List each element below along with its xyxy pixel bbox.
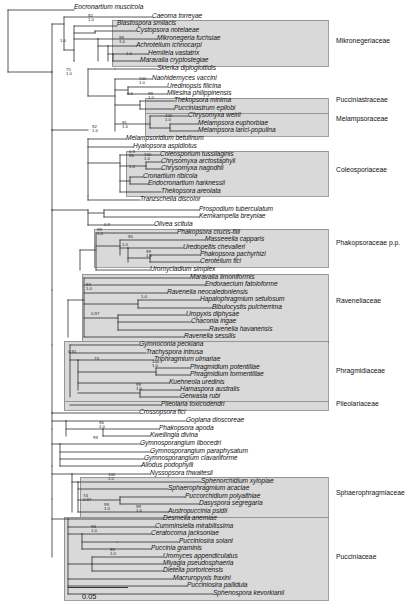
taxon-label: Phragmidium tormentillae xyxy=(190,370,264,377)
support-value: 1001.0 xyxy=(144,153,151,162)
support-value: 931.0 xyxy=(91,525,97,534)
support-posterior: 1.0 xyxy=(66,72,72,76)
taxon-label: Gymnoconia peckiana xyxy=(139,340,203,347)
support-value: 1.0 xyxy=(122,243,128,247)
support-posterior: 1.0 xyxy=(141,295,147,299)
support-value: 921.0 xyxy=(88,14,94,23)
taxon-label: Olivea scitula xyxy=(154,220,193,227)
taxon-label: Maravalia cryptostegiae xyxy=(140,56,208,63)
support-value: 921.0 xyxy=(92,125,98,134)
support-posterior: 1.0 xyxy=(126,52,132,56)
support-bootstrap: 90 xyxy=(128,234,133,239)
taxon-label: Pucciniosira pallidula xyxy=(187,581,247,588)
support-posterior: 1.0 xyxy=(146,254,152,258)
taxon-label: Austropuccinia psidii xyxy=(168,507,227,514)
support-posterior: 1.0 xyxy=(104,507,110,511)
support-posterior: 1.0 xyxy=(122,125,128,129)
taxon-label: Sphaerophragmium acaciae xyxy=(168,484,249,491)
taxon-label: Phakopsora apoda xyxy=(159,424,214,431)
taxon-label: Dasyspora segregaria xyxy=(199,499,263,506)
taxon-label: Ravenelia havanensis xyxy=(209,325,273,332)
taxon-label: Chrysomyxa nagodhii xyxy=(161,164,223,171)
taxon-label: Thekopsora minima xyxy=(174,96,231,103)
family-label: Mikronegeriaceae xyxy=(336,37,390,45)
taxon-label: Trachyspora intrusa xyxy=(146,348,203,355)
support-value: 1001.0 xyxy=(139,77,146,86)
taxon-label: Melampsora larici-populina xyxy=(198,126,276,133)
taxon-label: Melampsora euphorbiae xyxy=(198,119,268,126)
support-posterior: 1.0 xyxy=(152,364,159,368)
taxon-label: Phakopsora pachyrhizi xyxy=(200,250,266,257)
support-value: 73 xyxy=(94,357,99,361)
support-value: 0.9 xyxy=(104,223,110,227)
support-value: 991.0 xyxy=(148,92,154,101)
taxon-label: Pileolaria toxicodendri xyxy=(161,400,224,407)
taxon-label: Blastospora smilacis xyxy=(117,19,176,26)
support-bootstrap: 0.9 xyxy=(104,222,110,227)
taxon-label: Chrysomyxa arctostaphyli xyxy=(161,157,235,164)
family-label: Sphaerophragmiaceae xyxy=(336,489,405,497)
taxon-label: Masseeella capparis xyxy=(205,235,264,242)
taxon-label: Kweilingia divina xyxy=(150,431,198,438)
support-value: 740.97 xyxy=(83,494,91,503)
taxon-label: Naohidemyces vaccini xyxy=(152,74,217,81)
taxon-label: Chrysomyxa weirii xyxy=(188,111,241,118)
support-bootstrap: 73 xyxy=(94,356,99,361)
taxon-label: Hemileia vastatrix xyxy=(148,49,199,56)
family-label: Pileolariaceae xyxy=(336,400,379,408)
support-posterior: 1.0 xyxy=(165,118,172,122)
taxon-label: Cerotelium fici xyxy=(200,257,241,264)
taxon-label: Miyagia pseudosphaeria xyxy=(163,559,233,566)
support-value: 0.97 xyxy=(91,312,99,316)
taxon-label: Bibulocystis pulcherrima xyxy=(212,303,282,310)
taxon-label: Puccinia graminis xyxy=(151,544,202,551)
taxon-label: Melampsoridium betulinum xyxy=(126,134,204,141)
scale-bar-label: 0.05 xyxy=(82,592,96,601)
taxon-label: Dietelia portoricensis xyxy=(163,566,223,573)
taxon-label: Coleosporium tussilaginis xyxy=(160,150,234,157)
support-posterior: 0.97 xyxy=(83,498,91,502)
support-value: 991.0 xyxy=(136,383,142,392)
taxon-label: Cystopsora notelaeae xyxy=(136,26,199,33)
support-value: 0.996 xyxy=(129,150,135,159)
family-label: Pucciniastraceae xyxy=(336,96,388,104)
taxon-label: Mikronegeria fuchsiae xyxy=(157,34,220,41)
taxon-label: Skierka diploglottidis xyxy=(157,64,216,71)
taxon-label: Milesina philippinensis xyxy=(167,89,231,96)
taxon-label: Uredinopsis filicina xyxy=(167,82,221,89)
taxon-label: Triphragmium ulmariae xyxy=(154,355,220,362)
taxon-label: Tranzschelia discolor xyxy=(140,195,200,202)
support-value: 90 xyxy=(128,235,133,239)
support-posterior: 1.0 xyxy=(136,387,142,391)
family-label: Melampsoraceae xyxy=(336,115,388,123)
family-label: Raveneliaceae xyxy=(336,297,381,305)
support-posterior: 1.0 xyxy=(144,157,151,161)
taxon-label: Eocronartium muscicola xyxy=(74,3,143,10)
taxon-label: Phragmidium potentillae xyxy=(190,363,260,370)
support-posterior: 1.0 xyxy=(110,552,116,556)
support-value: 991.0 xyxy=(119,36,125,45)
taxon-label: Cumminsiella mirabilissima xyxy=(155,522,233,529)
taxon-label: Sphenospora kevorkianii xyxy=(213,589,284,596)
support-value: 1.0 xyxy=(141,295,147,299)
support-posterior: 1.0 xyxy=(148,96,154,100)
taxon-label: Gymnosporangium libocedri xyxy=(140,439,221,446)
taxon-label: Ceratocoma jacksoniae xyxy=(151,529,219,536)
taxon-label: Gymnosporangium clavariiforme xyxy=(144,454,237,461)
family-label: Phakopsoraceae p.p. xyxy=(336,239,400,247)
support-posterior: 1.0 xyxy=(108,477,115,481)
support-value: 1.0 xyxy=(129,165,135,169)
taxon-label: Pucciniosira solani xyxy=(179,537,233,544)
taxon-label: Sphenorchidium xylopiae xyxy=(201,477,274,484)
support-bootstrap: 99 xyxy=(93,435,98,440)
taxon-label: Macruropyxis fraxini xyxy=(173,574,231,581)
taxon-label: Phakopsora crucis-filii xyxy=(177,228,240,235)
support-value: 991.0 xyxy=(136,505,142,514)
taxon-label: Pucciniastrum epilobi xyxy=(174,104,235,111)
support-value: 991.0 xyxy=(104,503,110,512)
support-bootstrap: 1.0 xyxy=(122,242,128,247)
support-value: 1001.0 xyxy=(108,473,115,482)
support-bootstrap: 0.97 xyxy=(91,311,99,316)
taxon-label: Ravenelia neocaledoniensis xyxy=(167,288,248,295)
support-posterior: 96 xyxy=(129,154,135,158)
